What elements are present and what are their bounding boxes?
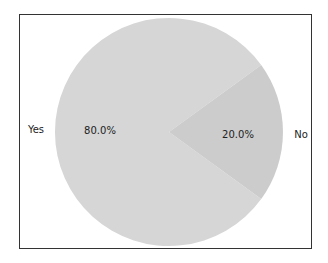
label-no: No (294, 129, 308, 140)
pct-no: 20.0% (222, 129, 254, 140)
label-yes: Yes (27, 124, 44, 135)
pct-yes: 80.0% (84, 125, 116, 136)
pie-chart: Yes 80.0% 20.0% No (0, 0, 328, 263)
